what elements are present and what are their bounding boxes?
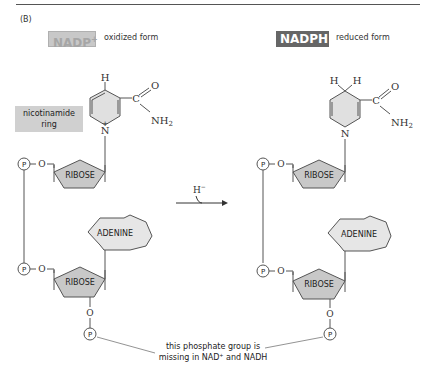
positive-charge: + (102, 119, 109, 128)
ribose-label: RIBOSE (304, 171, 334, 180)
atom-nh2: NH2 (151, 115, 173, 128)
ribose-label: RIBOSE (65, 278, 95, 287)
atom-h1: H (330, 75, 339, 86)
oxygen-bottom-left: O (38, 264, 45, 274)
nicotinamide-label-line1: nicotinamide (23, 109, 75, 118)
annotation-line1: this phosphate group is (166, 342, 260, 351)
atom-nh2: NH2 (391, 117, 413, 130)
nadp-diagram: nicotinamide ring H C O NH2 N + RIBOSE P… (0, 0, 426, 373)
svg-text:P: P (22, 266, 26, 274)
atom-o: O (391, 81, 399, 92)
atom-o: O (151, 80, 159, 91)
reaction-arrow: H− (176, 183, 228, 206)
atom-h2: H (353, 75, 362, 86)
svg-text:P: P (261, 268, 265, 276)
nicotinamide-label-line2: ring (41, 120, 57, 129)
oxygen-2prime-left: O (86, 308, 93, 318)
oxygen-top-right: O (277, 159, 284, 169)
adenine-label: ADENINE (97, 229, 133, 238)
atom-h: H (101, 72, 110, 83)
oxygen-top-left: O (38, 159, 45, 169)
dihydropyridine-ring (330, 91, 360, 127)
svg-text:P: P (22, 161, 26, 169)
oxygen-2prime-right: O (326, 309, 333, 319)
svg-text:P: P (88, 331, 92, 339)
oxygen-bottom-right: O (277, 266, 284, 276)
adenine-label: ADENINE (341, 230, 377, 239)
hydride-label: H− (193, 183, 206, 195)
ribose-label: RIBOSE (304, 280, 334, 289)
svg-text:P: P (328, 331, 332, 339)
ribose-label: RIBOSE (65, 171, 95, 180)
svg-text:P: P (261, 161, 265, 169)
right-molecule: H H C O NH2 N RIBOSE P O ADENINE RIBOSE … (257, 75, 413, 340)
phosphate-annotation: this phosphate group is missing in NAD+ … (97, 337, 323, 362)
annotation-line2: missing in NAD+ and NADH (159, 352, 268, 362)
left-molecule: nicotinamide ring H C O NH2 N + RIBOSE P… (15, 72, 173, 340)
atom-n: N (341, 128, 350, 139)
